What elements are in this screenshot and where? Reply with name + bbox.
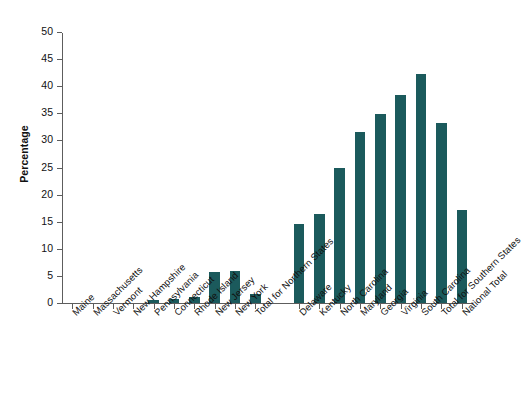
x-axis-labels: MaineMassachusettsVermontNew HampshirePe… bbox=[62, 308, 472, 416]
y-axis-tick-label: 40 bbox=[41, 79, 53, 91]
bar bbox=[436, 123, 447, 303]
y-axis-tick-label: 20 bbox=[41, 188, 53, 200]
y-axis-tick: 50 bbox=[57, 32, 62, 33]
y-axis-line bbox=[62, 33, 63, 304]
y-axis-tick: 0 bbox=[57, 303, 62, 304]
y-axis-tick-label: 5 bbox=[47, 269, 53, 281]
y-axis-tick-label: 0 bbox=[47, 296, 53, 308]
bar bbox=[355, 132, 366, 303]
y-axis-tick: 15 bbox=[57, 222, 62, 223]
y-axis-tick: 25 bbox=[57, 168, 62, 169]
y-axis-tick: 10 bbox=[57, 249, 62, 250]
y-axis-title: Percentage bbox=[18, 104, 30, 204]
y-axis-tick-label: 50 bbox=[41, 25, 53, 37]
y-axis-tick-label: 35 bbox=[41, 106, 53, 118]
y-axis-tick-label: 45 bbox=[41, 52, 53, 64]
y-axis-tick: 5 bbox=[57, 276, 62, 277]
y-axis-tick: 40 bbox=[57, 86, 62, 87]
bar bbox=[395, 95, 406, 303]
bar bbox=[416, 74, 427, 303]
y-axis-tick: 30 bbox=[57, 140, 62, 141]
y-axis-tick: 20 bbox=[57, 195, 62, 196]
y-axis-tick-label: 25 bbox=[41, 161, 53, 173]
y-axis-tick-label: 30 bbox=[41, 133, 53, 145]
plot-area: 05101520253035404550 bbox=[62, 33, 472, 304]
y-axis-tick: 45 bbox=[57, 59, 62, 60]
y-axis-tick-label: 15 bbox=[41, 215, 53, 227]
y-axis-tick: 35 bbox=[57, 113, 62, 114]
y-axis-tick-label: 10 bbox=[41, 242, 53, 254]
